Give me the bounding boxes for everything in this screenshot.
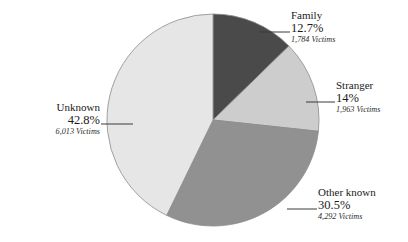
pie-label-unknown-name: Unknown — [8, 101, 100, 114]
pie-label-family-name: Family — [291, 9, 335, 22]
pie-label-stranger-name: Stranger — [336, 79, 380, 92]
pie-label-other-known-name: Other known — [318, 186, 376, 199]
pie-chart: Family 12.7% 1,784 Victims Stranger 14% … — [0, 0, 408, 242]
pie-label-other-known: Other known 30.5% 4,292 Victims — [318, 186, 376, 222]
pie-label-stranger-percent: 14% — [336, 92, 380, 106]
pie-label-unknown-count: 6,013 Victims — [8, 127, 100, 137]
pie-label-other-known-percent: 30.5% — [318, 199, 376, 213]
pie-label-stranger: Stranger 14% 1,963 Victims — [336, 79, 380, 115]
pie-label-family: Family 12.7% 1,784 Victims — [291, 9, 335, 45]
pie-label-stranger-count: 1,963 Victims — [336, 105, 380, 115]
pie-label-unknown: Unknown 42.8% 6,013 Victims — [8, 101, 100, 137]
pie-label-family-percent: 12.7% — [291, 22, 335, 36]
pie-slices — [107, 14, 319, 226]
pie-label-unknown-percent: 42.8% — [8, 114, 100, 128]
pie-label-family-count: 1,784 Victims — [291, 35, 335, 45]
pie-label-other-known-count: 4,292 Victims — [318, 212, 376, 222]
